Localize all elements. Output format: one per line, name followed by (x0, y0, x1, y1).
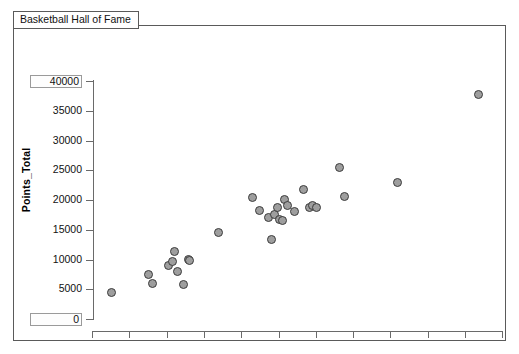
scatter-point[interactable] (255, 206, 264, 215)
plot-frame: 4000035000300002500020000150001000050000… (13, 25, 506, 341)
scatter-point[interactable] (144, 270, 153, 279)
scatter-point[interactable] (173, 267, 182, 276)
scatter-point[interactable] (278, 216, 287, 225)
scatter-point[interactable] (148, 279, 157, 288)
scatter-point[interactable] (107, 288, 116, 297)
y-axis-title: Points_Total (20, 135, 32, 225)
scatter-point[interactable] (267, 235, 276, 244)
scatter-point[interactable] (393, 178, 402, 187)
scatter-points-layer (14, 26, 506, 341)
scatter-point[interactable] (168, 257, 177, 266)
scatter-point[interactable] (214, 228, 223, 237)
scatter-point[interactable] (290, 207, 299, 216)
scatter-point[interactable] (185, 256, 194, 265)
scatter-point[interactable] (340, 192, 349, 201)
scatter-point[interactable] (170, 247, 179, 256)
scatter-point[interactable] (273, 203, 282, 212)
chart-window: Basketball Hall of Fame 4000035000300002… (0, 0, 519, 354)
tab-notch (14, 24, 129, 27)
scatter-point[interactable] (179, 280, 188, 289)
scatter-point[interactable] (474, 90, 483, 99)
scatter-point[interactable] (299, 185, 308, 194)
scatter-point[interactable] (335, 163, 344, 172)
scatter-point[interactable] (248, 193, 257, 202)
scatter-point[interactable] (312, 203, 321, 212)
